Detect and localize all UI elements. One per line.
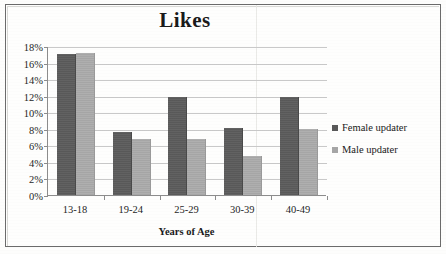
bar-male[interactable] — [132, 139, 151, 195]
x-axis-tick-mark — [327, 196, 328, 200]
bar-male[interactable] — [76, 53, 95, 195]
legend-item-male[interactable]: Male updater — [332, 144, 407, 155]
bar-group — [160, 46, 216, 195]
x-axis-category-label: 40-49 — [286, 204, 311, 215]
x-axis-category-label: 25-29 — [174, 204, 199, 215]
bar-female[interactable] — [168, 97, 187, 195]
bar-female[interactable] — [113, 132, 132, 195]
y-axis-tick-label: 4% — [29, 157, 43, 168]
bar-female[interactable] — [57, 54, 76, 195]
bar-group — [215, 46, 271, 195]
legend-label-female: Female updater — [342, 122, 407, 133]
x-axis-category-label: 30-39 — [230, 204, 255, 215]
bar-male[interactable] — [243, 156, 262, 195]
chart-legend: Female updater Male updater — [332, 122, 407, 166]
y-axis-tick-mark — [44, 196, 48, 197]
y-axis-tick-label: 8% — [29, 124, 43, 135]
x-axis-tick-mark — [271, 196, 272, 200]
y-axis-tick-label: 18% — [24, 42, 43, 53]
y-axis-tick-label: 16% — [24, 58, 43, 69]
bar-male[interactable] — [299, 129, 318, 195]
bar-group — [48, 46, 104, 195]
legend-item-female[interactable]: Female updater — [332, 122, 407, 133]
bar-group — [104, 46, 160, 195]
y-axis-tick-label: 10% — [24, 108, 43, 119]
x-axis-category-label: 19-24 — [118, 204, 143, 215]
legend-label-male: Male updater — [342, 144, 398, 155]
legend-swatch-icon-female — [332, 125, 338, 131]
chart-page: Likes 0%2%4%6%8%10%12%14%16%18% Years of… — [0, 0, 446, 254]
x-axis-tick-mark — [104, 196, 105, 200]
chart-title: Likes — [40, 8, 330, 33]
bar-male[interactable] — [187, 139, 206, 195]
y-axis-tick-label: 6% — [29, 141, 43, 152]
x-axis-tick-mark — [160, 196, 161, 200]
bar-group — [271, 46, 327, 195]
x-axis-category-label: 13-18 — [63, 204, 88, 215]
legend-swatch-icon-male — [332, 147, 338, 153]
y-axis-tick-label: 14% — [24, 75, 43, 86]
y-axis-tick-label: 2% — [29, 174, 43, 185]
bar-female[interactable] — [224, 128, 243, 195]
y-axis-tick-label: 0% — [29, 191, 43, 202]
plot-area: 0%2%4%6%8%10%12%14%16%18% — [47, 47, 326, 196]
x-axis-title: Years of Age — [47, 226, 326, 237]
y-axis-tick-label: 12% — [24, 91, 43, 102]
x-axis-tick-mark — [215, 196, 216, 200]
bar-female[interactable] — [280, 97, 299, 195]
